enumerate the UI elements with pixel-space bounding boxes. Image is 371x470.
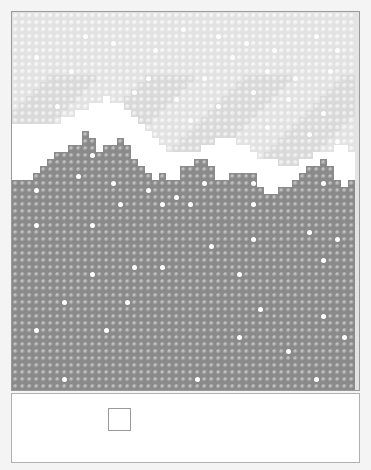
rock-bead [313,229,320,236]
snow-bead [229,138,236,145]
rock-bead [89,355,96,362]
sky-bead [110,61,117,68]
rock-bead [320,362,327,369]
sky-bead [33,19,40,26]
rock-bead [33,285,40,292]
rock-bead [236,229,243,236]
sky-bead [271,26,278,33]
rock-bead [54,264,61,271]
sky-bead [348,82,355,89]
rock-bead [89,229,96,236]
rock-bead [313,173,320,180]
sky-bead [299,47,306,54]
game-board[interactable] [11,11,360,391]
sky-bead [159,110,166,117]
rock-bead [236,173,243,180]
rock-bead [110,383,117,390]
sky-bead [243,103,250,110]
rock-bead [117,383,124,390]
sky-bead [138,33,145,40]
rock-bead [103,341,110,348]
sky-bead [12,82,19,89]
rock-bead [222,341,229,348]
sky-bead [75,68,82,75]
rock-bead [103,355,110,362]
rock-bead [229,257,236,264]
rock-bead [82,243,89,250]
rock-bead [250,215,257,222]
rock-bead [250,222,257,229]
rock-bead [152,229,159,236]
rock-bead [82,250,89,257]
sky-bead [285,110,292,117]
rock-bead [236,264,243,271]
sky-bead [229,19,236,26]
sky-bead [208,89,215,96]
sky-bead [40,47,47,54]
sky-bead [348,124,355,131]
rock-bead [96,222,103,229]
rock-bead [152,180,159,187]
rock-bead [299,334,306,341]
rock-bead [334,187,341,194]
inventory-slot[interactable] [108,408,131,431]
sky-bead [166,33,173,40]
rock-bead [166,341,173,348]
sky-bead [285,68,292,75]
rock-bead [208,362,215,369]
snow-bead [12,159,19,166]
rock-bead [236,278,243,285]
rock-bead [152,208,159,215]
sky-bead [348,131,355,138]
rock-bead [75,222,82,229]
rock-bead [271,362,278,369]
sky-bead [327,131,334,138]
rock-bead [243,299,250,306]
rock-bead [229,187,236,194]
sky-bead [222,131,229,138]
sky-bead [201,96,208,103]
rock-bead [124,243,131,250]
sky-bead [299,117,306,124]
sky-bead [327,12,334,19]
rock-bead [166,194,173,201]
sky-bead [320,145,327,152]
rock-bead [138,355,145,362]
snow-bead [61,145,68,152]
rock-bead [180,278,187,285]
rock-bead [187,166,194,173]
rock-bead [19,215,26,222]
rock-bead [110,187,117,194]
sky-bead [201,124,208,131]
rock-bead [131,229,138,236]
rock-bead [75,229,82,236]
rock-bead [110,236,117,243]
rock-bead [187,369,194,376]
rock-bead [250,348,257,355]
rock-bead [138,278,145,285]
sky-bead [159,75,166,82]
sky-bead [96,19,103,26]
rock-bead [54,341,61,348]
rock-bead [47,222,54,229]
rock-bead [236,355,243,362]
rock-bead [306,194,313,201]
sky-bead [271,61,278,68]
rock-bead [75,180,82,187]
sky-bead [299,12,306,19]
rock-bead [194,355,201,362]
sky-bead [306,26,313,33]
rock-bead [12,334,19,341]
rock-bead [215,348,222,355]
rock-bead [257,243,264,250]
sky-bead [152,12,159,19]
rock-bead [299,222,306,229]
rock-bead [12,250,19,257]
rock-bead [271,257,278,264]
snow-bead [26,131,33,138]
rock-bead [89,264,96,271]
sky-bead [12,12,19,19]
rock-bead [75,292,82,299]
rock-bead [292,341,299,348]
rock-bead [292,180,299,187]
